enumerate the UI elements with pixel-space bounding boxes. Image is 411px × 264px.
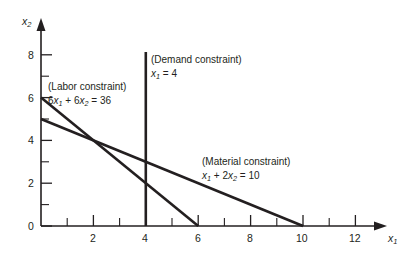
- x-tick-label-12: 12: [349, 233, 361, 244]
- labor-constraint-annotation: (Labor constraint) 6x1 + 6x2 = 36: [48, 80, 126, 107]
- demand-constraint-equation: x1 = 4: [151, 67, 242, 81]
- y-tick-label-4: 4: [28, 135, 34, 146]
- y-tick-label-0: 0: [28, 221, 34, 232]
- labor-constraint-equation: 6x1 + 6x2 = 36: [48, 94, 126, 108]
- material-plus: +: [214, 170, 220, 181]
- demand-constraint-annotation: (Demand constraint) x1 = 4: [151, 53, 242, 80]
- labor-constraint-title: (Labor constraint): [48, 80, 126, 94]
- constraint-graph-figure: x2 x1 0 2 4 6 8 2 4 6 8 10 12 (Labor con…: [0, 0, 411, 264]
- labor-var2: x: [80, 95, 85, 106]
- x-axis-title: x1: [388, 233, 397, 244]
- material-sub2: 2: [233, 174, 237, 183]
- material-sub1: 1: [207, 174, 211, 183]
- y-axis-arrow-icon: [37, 18, 46, 31]
- material-constraint-equation: x1 + 2x2 = 10: [202, 169, 290, 183]
- demand-sub1: 1: [156, 72, 160, 81]
- x-tick-label-2: 2: [90, 233, 96, 244]
- x-tick-label-6: 6: [195, 233, 201, 244]
- demand-constraint-title: (Demand constraint): [151, 53, 242, 67]
- labor-sub2: 2: [85, 99, 89, 108]
- demand-rhs: 4: [171, 68, 177, 79]
- material-constraint-title: (Material constraint): [202, 155, 290, 169]
- x-tick-label-10: 10: [296, 233, 308, 244]
- labor-sub1: 1: [59, 99, 63, 108]
- material-rhs: 10: [248, 170, 259, 181]
- material-constraint-annotation: (Material constraint) x1 + 2x2 = 10: [202, 155, 290, 182]
- material-equals: =: [240, 170, 246, 181]
- x-axis-arrow-icon: [374, 222, 387, 231]
- labor-constraint-line: [41, 98, 198, 226]
- plot-canvas: [0, 0, 411, 264]
- y-axis-title-sub: 2: [27, 20, 31, 29]
- y-tick-label-6: 6: [28, 93, 34, 104]
- labor-rhs: 36: [100, 95, 111, 106]
- demand-equals: =: [163, 68, 169, 79]
- x-tick-label-4: 4: [142, 233, 148, 244]
- labor-plus: +: [65, 95, 71, 106]
- y-tick-label-2: 2: [28, 178, 34, 189]
- x-tick-label-8: 8: [247, 233, 253, 244]
- labor-equals: =: [91, 95, 97, 106]
- y-axis-title: x2: [22, 16, 31, 27]
- labor-var1: x: [54, 95, 59, 106]
- y-tick-label-8: 8: [28, 50, 34, 61]
- x-axis-title-sub: 1: [393, 237, 397, 246]
